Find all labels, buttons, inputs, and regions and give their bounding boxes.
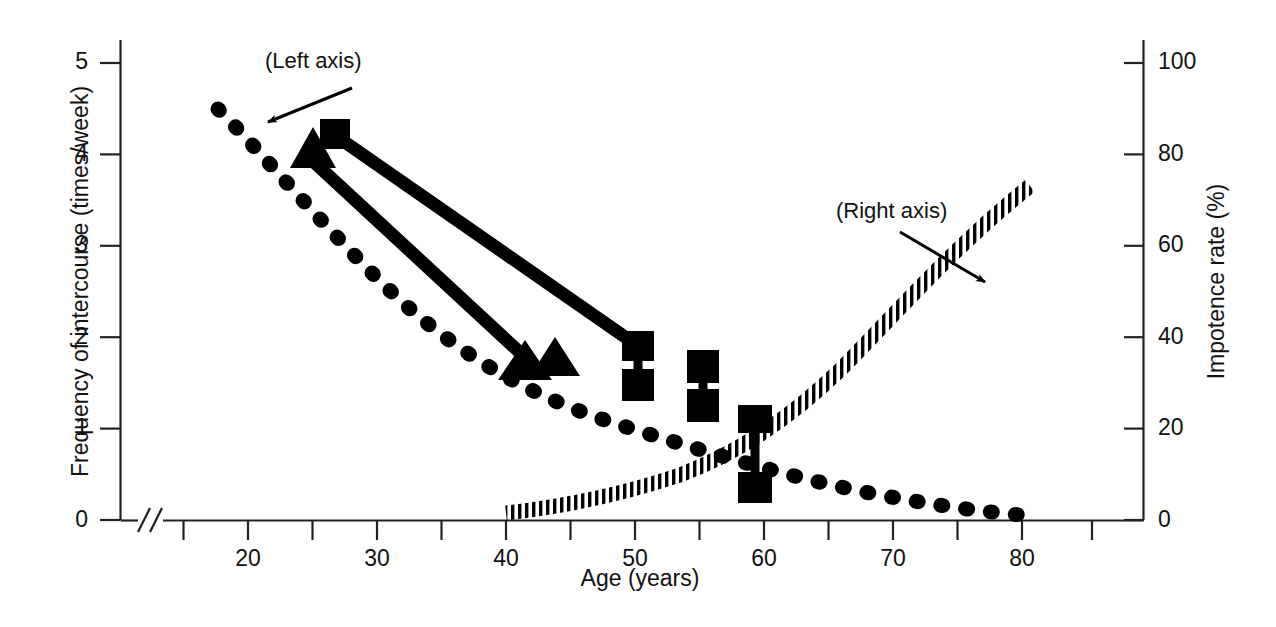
right-tick-label-80: 80 [1158,140,1206,167]
annotation-left-axis: (Left axis) [265,48,362,74]
right-tick-label-40: 40 [1158,323,1206,350]
left-tick-label-3: 3 [48,231,88,258]
x-tick-label-20: 20 [223,545,273,572]
right-tick-label-20: 20 [1158,414,1206,441]
axis-break-slash-2 [150,508,162,532]
left-tick-label-0: 0 [48,506,88,533]
right-axis-ticks [1124,63,1144,520]
triangle-marker-extra [530,337,580,376]
x-tick-label-80: 80 [997,545,1047,572]
x-tick-label-50: 50 [610,545,660,572]
left-axis-ticks [100,63,120,520]
x-tick-label-30: 30 [352,545,402,572]
right-tick-label-100: 100 [1158,48,1206,75]
square-pair-age-59 [738,405,772,503]
annotation-right-axis: (Right axis) [836,198,947,224]
right-tick-label-0: 0 [1158,506,1206,533]
left-tick-label-5: 5 [48,48,88,75]
left-axis-arrow [268,88,352,122]
left-tick-label-2: 2 [48,323,88,350]
chart-plot-area [0,0,1276,627]
axis-break-slash-1 [138,508,150,532]
square-marker-start [320,119,350,149]
square-pair-age-50 [622,331,654,401]
right-axis-title: Impotence rate (%) [1203,52,1230,512]
x-tick-label-60: 60 [739,545,789,572]
square-pair-age-55 [687,350,719,422]
axis-lines [121,40,1144,532]
right-tick-label-60: 60 [1158,231,1206,258]
x-tick-label-70: 70 [868,545,918,572]
x-tick-label-40: 40 [481,545,531,572]
left-tick-label-4: 4 [48,140,88,167]
annotation-arrows [268,88,985,282]
left-axis-title: Frequency of intercourse (times/week) [67,52,94,512]
chart-figure: Frequency of intercourse (times/week) Im… [0,0,1276,627]
left-tick-label-1: 1 [48,414,88,441]
x-axis-ticks [184,520,1093,540]
